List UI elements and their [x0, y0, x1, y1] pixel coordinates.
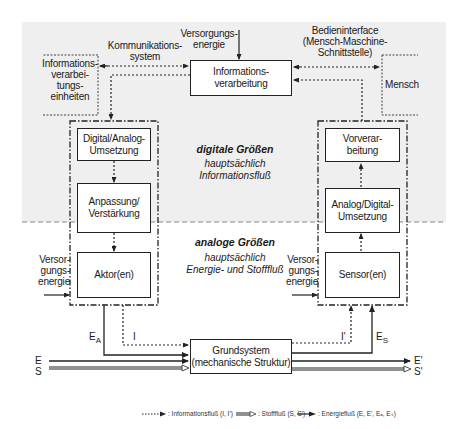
- grundsystem-box: Grundsystem (mechanische Struktur): [190, 339, 292, 374]
- analog-region-subtitle: hauptsächlich Energie- und Stofffluß: [160, 252, 310, 276]
- sensor-box: Sensor(en): [325, 252, 400, 298]
- bedieninterface-label: Bedieninterface (Mensch-Maschine- Schnit…: [300, 25, 390, 58]
- energy-out-label: E': [414, 355, 423, 366]
- stoff-out-label: S': [414, 366, 423, 377]
- informationsverarbeitung-box: Informations- verarbeitung: [190, 60, 292, 96]
- digital-analog-umsetzung-box: Digital/Analog- Umsetzung: [77, 128, 151, 161]
- information-flow-label: I: [133, 331, 136, 342]
- energy-actuator-label: EA: [89, 331, 101, 345]
- digital-region-subtitle: hauptsächlich Informationsfluß: [170, 158, 300, 182]
- legend-energie: : Energiefluß (E, E', Eₐ, Eₛ): [318, 410, 396, 418]
- vorverarbeitung-box: Vorverar- beitung: [325, 128, 400, 162]
- legend-information: : Informationsfluß (I, I'): [168, 410, 233, 417]
- informationsverarbeitungseinheiten-label: Informations- verarbei- tungs- einheiten: [40, 58, 100, 102]
- energy-in-label: E: [35, 355, 42, 366]
- mensch-label: Mensch: [384, 79, 420, 90]
- kommunikationssystem-label: Kommunikations- system: [100, 40, 190, 62]
- anpassung-verstaerkung-box: Anpassung/ Verstärkung: [77, 183, 151, 233]
- legend-stoff: : Stofffluß (S, S'): [258, 410, 305, 417]
- analog-region-title: analoge Größen: [168, 236, 302, 248]
- versorgungsenergie-top-label: Versorgungs- energie: [178, 28, 240, 50]
- stoff-in-label: S: [35, 366, 42, 377]
- information-flow-prime-label: I': [341, 331, 346, 342]
- versorgungsenergie-actuator-label: Versor- gungs- energie: [30, 254, 70, 287]
- analog-digital-umsetzung-box: Analog/Digital- Umsetzung: [325, 188, 400, 233]
- energy-sensor-label: ES: [376, 331, 388, 345]
- aktor-box: Aktor(en): [77, 252, 151, 298]
- digital-region-title: digitale Größen: [170, 143, 300, 155]
